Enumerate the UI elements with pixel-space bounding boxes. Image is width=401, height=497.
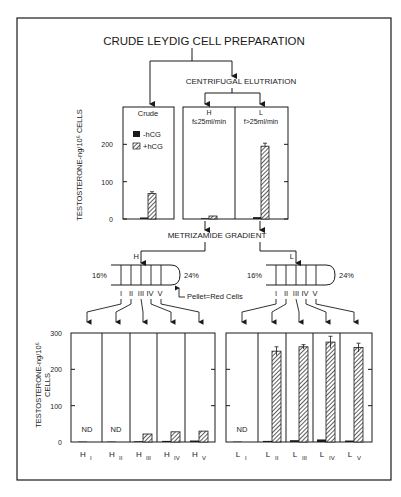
panel-label-h: H bbox=[206, 109, 211, 116]
fraction-label: I bbox=[120, 289, 122, 298]
pellet-note: Pellet=Red Cells bbox=[187, 292, 243, 301]
bar-minus-hcg bbox=[253, 217, 261, 219]
bar-plus-hcg bbox=[148, 194, 156, 219]
x-category-label: L bbox=[266, 450, 271, 459]
x-category-subscript: IV bbox=[329, 455, 335, 461]
x-category-label: L bbox=[236, 450, 241, 459]
fraction-label: II bbox=[129, 289, 133, 298]
x-category-subscript: I bbox=[245, 455, 247, 461]
step-elutriation: CENTRIFUGAL ELUTRIATION bbox=[186, 77, 297, 86]
panel-sub-l: f>25ml/min bbox=[244, 118, 279, 125]
gradient-low-label: 16% bbox=[247, 271, 262, 280]
bar-plus-hcg bbox=[299, 347, 308, 442]
legend-plus-label: +hCG bbox=[143, 142, 163, 151]
x-category-label: H bbox=[192, 450, 198, 459]
bar-plus-hcg bbox=[261, 146, 269, 219]
bar-plus-hcg bbox=[143, 434, 152, 442]
gradient-low-label: 16% bbox=[92, 271, 107, 280]
nd-label: ND bbox=[82, 425, 93, 434]
bar-plus-hcg bbox=[354, 348, 363, 442]
y-tick-label: 100 bbox=[50, 403, 62, 410]
bottom-y-axis-label-2: CELLS bbox=[43, 373, 52, 397]
y-tick-label: 200 bbox=[50, 366, 62, 373]
legend-plus-swatch bbox=[133, 143, 140, 149]
x-category-label: H bbox=[109, 450, 115, 459]
panel-label-l: L bbox=[259, 109, 263, 116]
y-tick-label: 300 bbox=[50, 330, 62, 337]
x-category-subscript: II bbox=[275, 455, 279, 461]
bar-minus-hcg bbox=[140, 218, 148, 219]
fraction-label: III bbox=[138, 289, 144, 298]
bar-plus-hcg bbox=[199, 431, 208, 442]
x-category-subscript: I bbox=[90, 455, 92, 461]
fraction-label: III bbox=[293, 289, 299, 298]
x-category-subscript: III bbox=[146, 455, 151, 461]
bar-minus-hcg bbox=[290, 440, 299, 442]
y-tick-label: 0 bbox=[109, 216, 113, 223]
title: CRUDE LEYDIG CELL PREPARATION bbox=[103, 35, 305, 47]
bar-minus-hcg bbox=[134, 441, 143, 442]
nd-label: ND bbox=[111, 425, 122, 434]
x-category-label: H bbox=[136, 450, 142, 459]
fraction-label: IV bbox=[146, 289, 153, 298]
bar-plus-hcg bbox=[326, 342, 335, 442]
x-category-label: L bbox=[293, 450, 298, 459]
nd-label: ND bbox=[237, 425, 248, 434]
bar-plus-hcg bbox=[171, 432, 180, 442]
bar-minus-hcg bbox=[201, 218, 209, 219]
bar-minus-hcg bbox=[190, 441, 199, 442]
bar-minus-hcg bbox=[317, 439, 326, 442]
bottom-y-axis-label-1: TESTOSTERONE-ng/10⁶ bbox=[34, 342, 43, 427]
y-tick-label: 0 bbox=[58, 439, 62, 446]
y-tick-label: 100 bbox=[101, 179, 113, 186]
bottom-chart-h: 0100200300NDHINDHIIHIIIHIVHV bbox=[50, 330, 215, 461]
bar-minus-hcg bbox=[162, 441, 171, 442]
legend-minus-swatch bbox=[133, 131, 140, 137]
bar-minus-hcg bbox=[345, 441, 354, 442]
y-tick-label: 200 bbox=[101, 141, 113, 148]
x-category-label: H bbox=[80, 450, 86, 459]
x-category-subscript: V bbox=[357, 455, 361, 461]
gradient-high-label: 24% bbox=[339, 271, 354, 280]
fraction-label: I bbox=[275, 289, 277, 298]
fraction-label: IV bbox=[301, 289, 308, 298]
x-category-label: L bbox=[320, 450, 325, 459]
bar-plus-hcg bbox=[272, 351, 281, 442]
bar-plus-hcg bbox=[209, 216, 217, 219]
fraction-label: V bbox=[312, 289, 317, 298]
x-category-subscript: IV bbox=[174, 455, 180, 461]
gradient-high-label: 24% bbox=[184, 271, 199, 280]
fraction-label: II bbox=[284, 289, 288, 298]
fraction-label: V bbox=[157, 289, 162, 298]
legend-minus-label: -hCG bbox=[143, 130, 161, 139]
x-category-subscript: V bbox=[202, 455, 206, 461]
step-metrizamide: METRIZAMIDE GRADIENT bbox=[168, 231, 267, 240]
figure: CRUDE LEYDIG CELL PREPARATION CENTRIFUGA… bbox=[0, 0, 401, 497]
gradient-tubes: 16%24%HIIIIIIIVVPellet=Red Cells16%24%LI… bbox=[87, 252, 354, 322]
panel-label-crude: Crude bbox=[138, 109, 158, 118]
bar-minus-hcg bbox=[263, 441, 272, 442]
top-y-axis-label: TESTOSTERONE-ng/10⁶ CELLS bbox=[75, 109, 84, 220]
x-category-label: H bbox=[164, 450, 170, 459]
panel-sub-h: f≤25ml/min bbox=[192, 118, 226, 125]
gradient-source-label: H bbox=[134, 252, 139, 261]
x-category-subscript: III bbox=[302, 455, 307, 461]
bottom-chart-l: NDLILIILIIILIVLV bbox=[226, 333, 372, 461]
top-chart: 0100200CrudeHf≤25ml/minLf>25ml/min-hCG+h… bbox=[101, 107, 288, 223]
x-category-subscript: II bbox=[119, 455, 123, 461]
gradient-source-label: L bbox=[290, 252, 294, 261]
x-category-label: L bbox=[348, 450, 353, 459]
